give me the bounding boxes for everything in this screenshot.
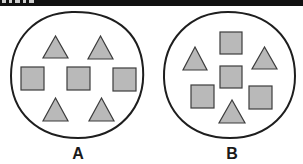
panel-b-label: B: [217, 145, 247, 163]
square-shape: [220, 66, 242, 88]
diagram-canvas: [0, 0, 303, 164]
square-shape: [21, 67, 44, 90]
panel-b: [164, 12, 295, 138]
square-shape: [249, 86, 272, 109]
triangle-shape: [43, 98, 68, 121]
triangle-shape: [88, 36, 113, 59]
square-shape: [220, 32, 242, 54]
square-shape: [191, 85, 214, 108]
square-shape: [113, 68, 136, 91]
panel-a: [11, 12, 143, 138]
triangle-shape: [183, 47, 207, 70]
triangle-shape: [219, 100, 245, 123]
panel-a-label: A: [63, 145, 93, 163]
square-shape: [67, 67, 90, 90]
triangle-shape: [89, 98, 114, 121]
triangle-shape: [43, 36, 68, 58]
triangle-shape: [252, 47, 277, 69]
